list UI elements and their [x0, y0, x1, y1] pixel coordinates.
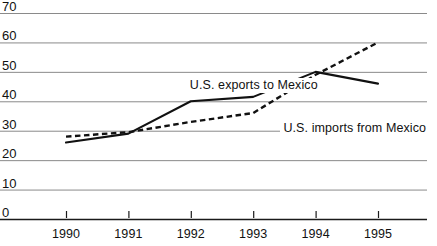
y-axis-tick-label: 40: [2, 88, 17, 101]
x-axis-tick-label: 1991: [98, 228, 158, 241]
x-axis-tick-label: 1994: [286, 228, 346, 241]
x-axis-tick-label: 1990: [36, 228, 96, 241]
y-axis-tick-label: 10: [2, 177, 17, 190]
x-axis-tick-label: 1995: [348, 228, 408, 241]
y-axis-tick-label: 20: [2, 147, 17, 160]
annotation-imports: U.S. imports from Mexico: [280, 121, 429, 136]
y-axis-tick-label: 30: [2, 118, 17, 131]
y-axis-tick-label: 70: [2, 0, 17, 13]
y-axis-tick-label: 60: [2, 29, 17, 42]
x-axis-tick-label: 1992: [161, 228, 221, 241]
y-axis-tick-label: 50: [2, 59, 17, 72]
x-axis-tick-label: 1993: [223, 228, 283, 241]
x-tick-group: [67, 211, 379, 218]
annotation-exports: U.S. exports to Mexico: [187, 78, 321, 93]
gridline-group: [0, 14, 427, 191]
y-axis-tick-label: 0: [2, 206, 9, 219]
line-chart: 706050403020100 199019911992199319941995…: [0, 0, 437, 246]
